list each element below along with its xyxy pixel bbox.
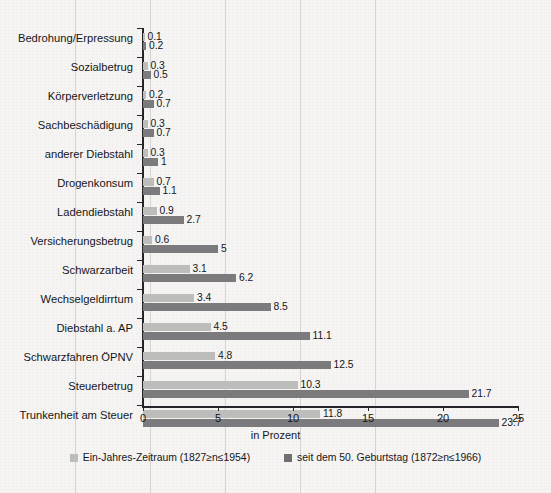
category-row: Diebstahl a. AP4.511.1 <box>0 318 551 347</box>
legend-swatch-icon-series-b <box>284 454 292 462</box>
bar-value-label: 12.5 <box>334 359 354 370</box>
bar-value-label: 0.6 <box>155 234 169 245</box>
x-axis-tick <box>293 406 294 411</box>
y-axis-tick <box>137 260 142 261</box>
category-row: Sozialbetrug0.30.5 <box>0 57 551 86</box>
bar-value-label: 11.8 <box>323 408 342 419</box>
y-axis-tick <box>137 57 142 58</box>
bar-value-label: 1 <box>161 156 167 167</box>
bar-series-b <box>143 332 310 340</box>
bar-series-a <box>143 294 194 302</box>
bar-value-label: 8.5 <box>274 301 288 312</box>
x-axis-tick-label: 0 <box>140 412 146 424</box>
bar-series-b <box>143 71 151 79</box>
category-row: Steuerbetrug10.321.7 <box>0 376 551 405</box>
bar-value-label: 0.7 <box>157 98 171 109</box>
legend-item-series-a[interactable]: Ein-Jahres-Zeitraum (1827≥n≤1954) <box>70 452 250 463</box>
bar-value-label: 21.7 <box>472 388 492 399</box>
bar-series-a <box>143 323 211 331</box>
category-label: Versicherungsbetrug <box>0 235 133 247</box>
bar-series-b <box>143 158 158 166</box>
bar-series-b <box>143 274 236 282</box>
y-axis-tick <box>137 28 142 29</box>
bar-series-a <box>143 33 145 41</box>
category-label: Körperverletzung <box>0 90 133 102</box>
category-label: Steuerbetrug <box>0 380 133 392</box>
x-axis-tick-label: 5 <box>215 412 221 424</box>
category-label: anderer Diebstahl <box>0 148 133 160</box>
category-label: Bedrohung/Erpressung <box>0 32 133 44</box>
x-axis-tick-label: 15 <box>362 412 374 424</box>
category-label: Ladendiebstahl <box>0 206 133 218</box>
bar-series-a <box>143 149 148 157</box>
category-label: Sozialbetrug <box>0 61 133 73</box>
bar-value-label: 11.1 <box>313 330 332 341</box>
bar-value-label: 0.2 <box>149 40 163 51</box>
y-axis-tick <box>137 173 142 174</box>
category-row: Wechselgeldirrtum3.48.5 <box>0 289 551 318</box>
x-axis-tick-label: 20 <box>437 412 449 424</box>
category-row: anderer Diebstahl0.31 <box>0 144 551 173</box>
bar-series-a <box>143 352 215 360</box>
bar-value-label: 2.7 <box>187 214 201 225</box>
category-row: Drogenkonsum0.71.1 <box>0 173 551 202</box>
bar-value-label: 4.8 <box>218 350 232 361</box>
bar-series-b <box>143 390 469 398</box>
category-row: Körperverletzung0.20.7 <box>0 86 551 115</box>
category-row: Bedrohung/Erpressung0.10.2 <box>0 28 551 57</box>
category-label: Schwarzarbeit <box>0 264 133 276</box>
chart-legend: Ein-Jahres-Zeitraum (1827≥n≤1954) seit d… <box>0 452 551 463</box>
bar-series-a <box>143 178 154 186</box>
bar-series-b <box>143 216 184 224</box>
category-row: Versicherungsbetrug0.65 <box>0 231 551 260</box>
bar-series-b <box>143 187 160 195</box>
bar-series-b <box>143 303 271 311</box>
bar-value-label: 0.7 <box>157 127 171 138</box>
y-axis-tick <box>137 405 142 406</box>
bar-series-a <box>143 120 148 128</box>
bar-value-label: 3.1 <box>193 263 207 274</box>
bar-value-label: 0.5 <box>154 69 168 80</box>
x-axis-title: in Prozent <box>0 429 551 441</box>
bar-series-b <box>143 361 331 369</box>
legend-label-series-a: Ein-Jahres-Zeitraum (1827≥n≤1954) <box>83 452 250 463</box>
x-axis-tick <box>518 406 519 411</box>
bar-value-label: 6.2 <box>239 272 253 283</box>
y-axis-tick <box>137 318 142 319</box>
legend-item-series-b[interactable]: seit dem 50. Geburtstag (1872≥n≤1966) <box>284 452 481 463</box>
x-axis-tick <box>218 406 219 411</box>
bar-series-a <box>143 265 190 273</box>
bar-chart: Bedrohung/Erpressung0.10.2Sozialbetrug0.… <box>0 0 551 493</box>
y-axis-tick <box>137 202 142 203</box>
y-axis-tick <box>137 347 142 348</box>
category-label: Trunkenheit am Steuer <box>0 409 133 421</box>
x-axis-tick-label: 10 <box>287 412 299 424</box>
bar-series-b <box>143 245 218 253</box>
category-row: Schwarzarbeit3.16.2 <box>0 260 551 289</box>
x-axis-tick <box>443 406 444 411</box>
y-axis-tick <box>137 289 142 290</box>
category-label: Drogenkonsum <box>0 177 133 189</box>
category-label: Schwarzfahren ÖPNV <box>0 351 133 363</box>
bar-series-a <box>143 236 152 244</box>
y-axis-tick <box>137 231 142 232</box>
category-label: Sachbeschädigung <box>0 119 133 131</box>
legend-swatch-icon-series-a <box>70 454 78 462</box>
bar-value-label: 0.9 <box>160 205 174 216</box>
category-label: Diebstahl a. AP <box>0 322 133 334</box>
bar-series-b <box>143 42 146 50</box>
bar-series-b <box>143 129 154 137</box>
bar-value-label: 4.5 <box>214 321 228 332</box>
bar-series-a <box>143 207 157 215</box>
category-label: Wechselgeldirrtum <box>0 293 133 305</box>
bar-value-label: 10.3 <box>301 379 321 390</box>
y-axis-tick <box>137 376 142 377</box>
y-axis-tick <box>137 144 142 145</box>
y-axis-tick <box>137 86 142 87</box>
category-row: Ladendiebstahl0.92.7 <box>0 202 551 231</box>
bar-value-label: 5 <box>221 243 227 254</box>
x-axis-tick <box>143 406 144 411</box>
category-row: Schwarzfahren ÖPNV4.812.5 <box>0 347 551 376</box>
y-axis-tick <box>137 115 142 116</box>
bar-series-a <box>143 91 146 99</box>
